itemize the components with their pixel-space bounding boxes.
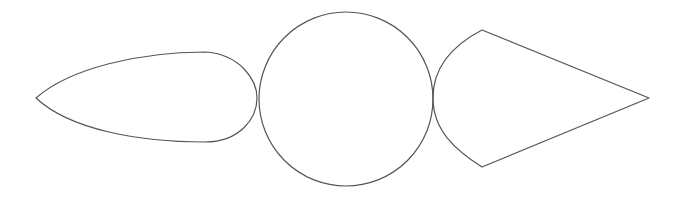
canvas-background <box>0 0 685 199</box>
diagram-canvas <box>0 0 685 199</box>
